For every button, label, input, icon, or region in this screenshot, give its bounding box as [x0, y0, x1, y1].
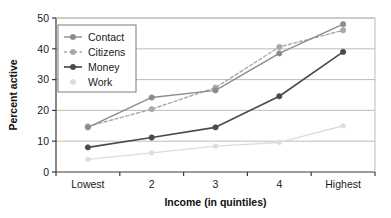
data-point-contact-0: [85, 125, 90, 130]
data-point-work-2: [213, 144, 218, 149]
chart-legend: ContactCitizensMoneyWork: [58, 25, 136, 92]
x-axis-title: Income (in quintiles): [164, 196, 266, 208]
data-point-money-3: [277, 94, 282, 99]
x-tick-label: Lowest: [71, 178, 104, 190]
legend-label-citizens[interactable]: Citizens: [88, 46, 125, 58]
line-chart: 01020304050 Lowest234Highest Percent act…: [0, 0, 391, 218]
data-point-contact-1: [149, 95, 154, 100]
legend-marker-contact: [70, 34, 75, 39]
y-tick-label: 40: [37, 43, 49, 55]
y-tick-label: 10: [37, 135, 49, 147]
data-point-money-0: [85, 145, 90, 150]
y-tick-label: 0: [43, 166, 49, 178]
y-tick-label: 50: [37, 12, 49, 24]
chart-container: 01020304050 Lowest234Highest Percent act…: [0, 0, 391, 218]
legend-label-work[interactable]: Work: [88, 76, 113, 88]
legend-marker-citizens: [70, 49, 75, 54]
data-point-money-2: [213, 125, 218, 130]
y-tick-label: 30: [37, 73, 49, 85]
x-tick-label: Highest: [325, 178, 361, 190]
data-point-citizens-3: [277, 44, 282, 49]
data-point-contact-4: [340, 21, 345, 26]
x-tick-label: 3: [213, 178, 219, 190]
x-tick-label: 2: [149, 178, 155, 190]
data-point-work-1: [149, 151, 154, 156]
legend-label-money[interactable]: Money: [88, 61, 120, 73]
data-point-citizens-4: [340, 28, 345, 33]
data-point-money-4: [340, 49, 345, 54]
y-tick-label: 20: [37, 104, 49, 116]
data-point-money-1: [149, 135, 154, 140]
legend-marker-work: [70, 79, 75, 84]
data-point-work-0: [86, 157, 91, 162]
data-point-contact-3: [277, 51, 282, 56]
legend-marker-money: [70, 64, 75, 69]
x-tick-label: 4: [276, 178, 282, 190]
y-axis-title: Percent active: [7, 59, 19, 130]
data-point-work-3: [277, 140, 282, 145]
data-point-work-4: [341, 124, 346, 129]
data-point-citizens-1: [149, 106, 154, 111]
data-point-contact-2: [213, 88, 218, 93]
legend-label-contact[interactable]: Contact: [88, 31, 124, 43]
